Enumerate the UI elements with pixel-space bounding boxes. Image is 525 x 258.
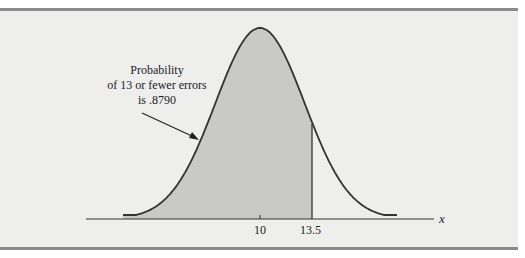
x-axis-label: x [439,211,445,227]
annotation-line-3: is .8790 [98,93,216,108]
annotation-arrow [142,113,194,137]
annotation-text: Probability of 13 or fewer errors is .87… [98,63,216,108]
tick-label-10: 10 [254,223,266,238]
arrow-head-icon [189,132,199,140]
annotation-line-2: of 13 or fewer errors [98,78,216,93]
annotation-line-1: Probability [98,63,216,78]
normal-curve-plot [0,0,525,258]
shaded-area [123,28,312,219]
tick-label-13-5: 13.5 [300,223,321,238]
